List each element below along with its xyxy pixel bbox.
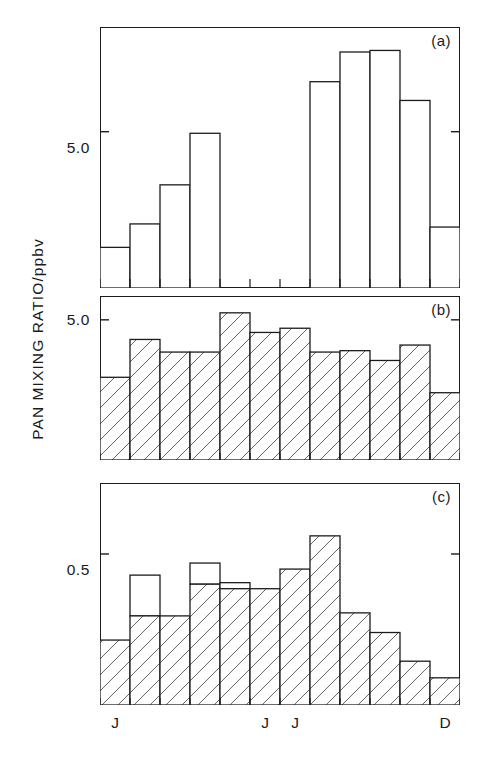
panel-a-ytick-label: 5.0	[20, 139, 90, 157]
panel-a-plot	[100, 27, 460, 288]
panel-c-ytick-label: 0.5	[20, 561, 90, 579]
x-axis-tick-label: J	[95, 714, 135, 732]
panel-b-plot	[100, 296, 460, 460]
panel-a: (a)	[100, 27, 460, 288]
figure-pan-mixing-ratio: PAN MIXING RATIO/ppbv (a) 5.0 (b) 5.0 (c…	[0, 0, 484, 757]
x-axis-tick-label: J	[275, 714, 315, 732]
panel-c-plot	[100, 483, 460, 705]
panel-c: (c)	[100, 483, 460, 705]
panel-b-ytick-label: 5.0	[20, 311, 90, 329]
panel-b: (b)	[100, 296, 460, 460]
y-axis-label: PAN MIXING RATIO/ppbv	[29, 209, 47, 469]
x-axis-tick-label: D	[425, 714, 465, 732]
